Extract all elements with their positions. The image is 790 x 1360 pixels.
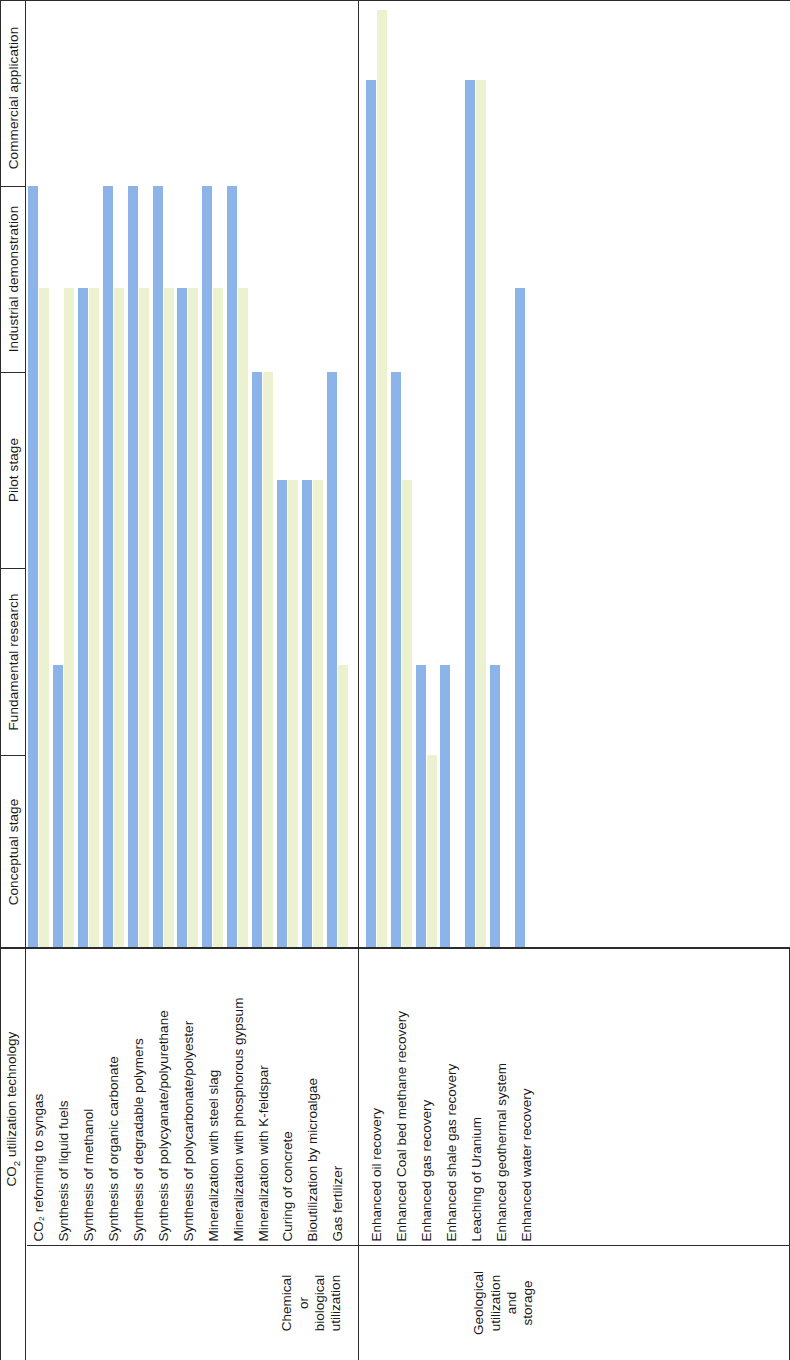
bar-series-a xyxy=(252,372,262,948)
technology-label: Enhanced gas recovery xyxy=(419,1099,433,1241)
bar-series-b xyxy=(377,10,387,948)
bar-series-a xyxy=(78,288,88,948)
bar-series-a xyxy=(391,372,401,948)
row-header-text: CO2 utilization technology xyxy=(4,1032,22,1187)
stage-divider xyxy=(0,755,26,756)
bar-series-b xyxy=(64,288,74,948)
bar-series-a xyxy=(490,665,500,948)
technology-label: Enhanced water recovery xyxy=(519,1088,533,1241)
bar-group xyxy=(439,0,464,948)
bar-series-a xyxy=(465,80,475,948)
bar-series-a xyxy=(202,186,212,948)
category-label-chemical-or-biological-utilization: Chemicalorbiologicalutilization xyxy=(27,1246,351,1360)
category-label-line: or xyxy=(295,1297,311,1309)
bar-series-b xyxy=(164,288,174,948)
bar-series-b xyxy=(402,480,412,948)
bar-group xyxy=(176,0,201,948)
stage-label-fundamental-research: Fundamental research xyxy=(0,568,26,755)
bar-series-b xyxy=(39,288,49,948)
bar-series-a xyxy=(53,665,63,948)
bar-group xyxy=(276,0,301,948)
row-header-cell: CO2 utilization technology xyxy=(0,949,26,1360)
technology-label: Mineralization with phosphorous gypsum xyxy=(231,997,245,1241)
bar-group xyxy=(415,0,440,948)
technology-label: Enhanced oil recovery xyxy=(370,1107,384,1241)
bar-series-a xyxy=(28,186,38,948)
bar-group xyxy=(365,0,390,948)
technology-label: Curing of concrete xyxy=(281,1131,295,1241)
bar-series-a xyxy=(177,288,187,948)
bar-group xyxy=(127,0,152,948)
stage-divider xyxy=(0,186,26,187)
bar-group xyxy=(77,0,102,948)
bar-group xyxy=(201,0,226,948)
label-table: CO2 utilization technology CO₂ reforming… xyxy=(0,948,790,1360)
bar-group xyxy=(390,0,415,948)
stage-divider xyxy=(0,372,26,373)
bar-series-a xyxy=(416,665,426,948)
bar-group xyxy=(326,0,351,948)
category-label-line: utilization xyxy=(488,1275,504,1331)
technology-label: Synthesis of degradable polymers xyxy=(132,1038,146,1241)
technology-label: Enhanced Coal bed methane recovery xyxy=(395,1011,409,1241)
stage-label-industrial-demonstration: Industrial demonstration xyxy=(0,186,26,372)
category-label-geological-utilization-and-storage: Geologicalutilizationandstorage xyxy=(365,1246,539,1360)
bar-series-a xyxy=(440,665,450,948)
bar-series-a xyxy=(128,186,138,948)
bar-series-b xyxy=(263,372,273,948)
bar-group xyxy=(102,0,127,948)
bar-group xyxy=(489,0,514,948)
technology-label: Mineralization with steel slag xyxy=(206,1069,220,1241)
bar-series-a xyxy=(153,186,163,948)
stage-label-pilot-stage: Pilot stage xyxy=(0,372,26,568)
category-divider-plot xyxy=(358,0,359,948)
bar-series-a xyxy=(227,186,237,948)
bar-group xyxy=(152,0,177,948)
stage-label-text: Industrial demonstration xyxy=(5,206,20,352)
category-label-line: biological xyxy=(312,1275,328,1331)
figure-root: Conceptual stage Fundamental research Pi… xyxy=(0,0,790,1360)
bar-series-b xyxy=(288,480,298,948)
bar-series-b xyxy=(139,288,149,948)
bar-group xyxy=(514,0,539,948)
technology-names-band: CO₂ reforming to syngasSynthesis of liqu… xyxy=(27,949,790,1246)
technology-label: Synthesis of polycyanate/polyurethane xyxy=(156,1010,170,1241)
stage-label-text: Conceptual stage xyxy=(5,798,20,905)
bar-series-a xyxy=(366,80,376,948)
bar-series-b xyxy=(427,755,437,948)
category-label-line: Geological xyxy=(471,1271,487,1335)
stage-label-commercial-application: Commercial application xyxy=(0,10,26,186)
bar-series-b xyxy=(213,288,223,948)
category-label-line: storage xyxy=(520,1280,536,1325)
technology-label: Enhanced shale gas recovery xyxy=(444,1063,458,1241)
bar-series-b xyxy=(114,288,124,948)
technology-label: Synthesis of organic carbonate xyxy=(107,1056,121,1241)
technology-label: Synthesis of polycarbonate/polyester xyxy=(181,1020,195,1241)
technology-label: Enhanced geothermal system xyxy=(494,1062,508,1241)
bar-group xyxy=(301,0,326,948)
bar-series-b xyxy=(89,288,99,948)
bar-group xyxy=(464,0,489,948)
technology-label: Mineralization with K-feldspar xyxy=(256,1065,270,1241)
bar-series-b xyxy=(188,288,198,948)
bar-series-b xyxy=(238,288,248,948)
chart-plot-area: Conceptual stage Fundamental research Pi… xyxy=(0,0,790,948)
bar-series-container xyxy=(27,0,790,948)
bar-group xyxy=(27,0,52,948)
technology-label: Leaching of Uranium xyxy=(469,1116,483,1241)
bar-series-b xyxy=(476,80,486,948)
stage-divider xyxy=(0,568,26,569)
stage-label-text: Commercial application xyxy=(5,27,20,170)
bar-group xyxy=(226,0,251,948)
technology-label: Bioutilization by microalgae xyxy=(306,1077,320,1241)
category-divider-table xyxy=(358,949,359,1360)
category-label-line: Chemical xyxy=(279,1275,295,1331)
stage-label-conceptual-stage: Conceptual stage xyxy=(0,755,26,948)
category-label-line: utilization xyxy=(328,1275,344,1331)
technology-label: CO₂ reforming to syngas xyxy=(32,1093,46,1241)
bar-series-b xyxy=(313,480,323,948)
bar-group xyxy=(52,0,77,948)
technology-label: Synthesis of liquid fuels xyxy=(57,1100,71,1241)
plot-top-border xyxy=(26,0,790,1)
bar-series-a xyxy=(302,480,312,948)
